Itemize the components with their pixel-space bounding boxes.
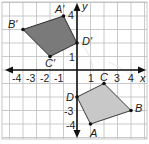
vertex-label-b-prime: B′ xyxy=(8,18,18,30)
coordinate-plane-figure: x y -4 -3 -2 -1 1 C 3 4 4 1 -3 -4 A B D … xyxy=(0,0,149,144)
x-tick-label: -1 xyxy=(54,72,63,84)
vertex-label-b: B xyxy=(135,102,142,114)
vertex-label-c-prime: C′ xyxy=(45,57,56,69)
x-tick-label: 3 xyxy=(114,72,120,84)
y-tick-label: -3 xyxy=(64,105,73,117)
y-tick-label: 4 xyxy=(68,9,74,21)
vertex-dot xyxy=(21,28,25,32)
x-tick-label: 1 xyxy=(88,72,94,84)
vertex-dot xyxy=(75,95,79,99)
vertex-label-c: C xyxy=(100,71,108,83)
vertex-label-a-prime: A′ xyxy=(54,3,65,15)
vertex-dot xyxy=(129,109,133,113)
vertex-dot xyxy=(89,122,93,126)
y-tick-label: 1 xyxy=(69,51,75,63)
vertex-label-a: A xyxy=(89,127,97,139)
vertex-label-d: D xyxy=(66,91,74,103)
x-tick-label: -4 xyxy=(12,72,21,84)
x-tick-label: -3 xyxy=(26,72,35,84)
x-tick-label: 4 xyxy=(128,72,134,84)
vertex-label-d-prime: D′ xyxy=(82,35,93,47)
y-tick-label: -4 xyxy=(66,119,75,131)
coordinate-plane-svg: x y -4 -3 -2 -1 1 C 3 4 4 1 -3 -4 A B D … xyxy=(0,0,149,144)
vertex-dot xyxy=(75,41,79,45)
x-tick-label: -2 xyxy=(40,72,49,84)
x-axis-label: x xyxy=(139,72,146,84)
